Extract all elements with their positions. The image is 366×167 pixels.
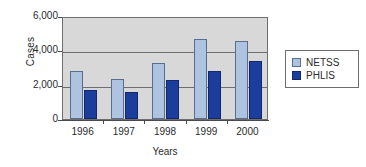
bar-group-1996: [63, 18, 104, 119]
bars-layer: [63, 18, 267, 119]
x-axis-line: [62, 120, 269, 121]
y-tick-label-6000: 6,000: [24, 10, 58, 21]
bar-netss-1997: [111, 79, 124, 119]
bar-phlis-1997: [125, 92, 138, 119]
legend-item-netss[interactable]: NETSS: [292, 56, 354, 69]
x-tick-label-2000: 2000: [227, 126, 267, 137]
bar-group-1997: [104, 18, 145, 119]
bar-group-1998: [145, 18, 186, 119]
legend-label: PHLIS: [306, 70, 335, 81]
bar-phlis-2000: [249, 61, 262, 119]
legend-item-phlis[interactable]: PHLIS: [292, 69, 354, 82]
x-tick-label-1997: 1997: [104, 126, 144, 137]
bar-netss-2000: [235, 41, 248, 119]
y-tick-label-4000: 4,000: [24, 44, 58, 55]
plot-area: [62, 17, 268, 120]
x-tick-mark-1997: [144, 120, 145, 124]
y-tick-label-0: 0: [24, 113, 58, 124]
chart-legend: NETSSPHLIS: [285, 50, 359, 88]
bar-group-2000: [228, 18, 269, 119]
y-axis-ticks: 6,0004,0002,0000: [22, 0, 58, 167]
legend-label: NETSS: [306, 57, 339, 68]
legend-swatch-phlis-icon: [292, 71, 301, 80]
bar-netss-1996: [70, 71, 83, 119]
x-tick-mark-1999: [227, 120, 228, 124]
x-tick-label-1999: 1999: [186, 126, 226, 137]
bar-phlis-1996: [84, 90, 97, 119]
x-tick-label-1998: 1998: [145, 126, 185, 137]
y-tick-label-2000: 2,000: [24, 79, 58, 90]
bar-phlis-1999: [208, 71, 221, 119]
bar-chart-figure: Cases 6,0004,0002,0000 19961997199819992…: [0, 0, 366, 167]
x-tick-mark-1998: [186, 120, 187, 124]
legend-swatch-netss-icon: [292, 58, 301, 67]
bar-phlis-1998: [166, 80, 179, 119]
bar-netss-1999: [194, 39, 207, 119]
x-axis-title: Years: [62, 146, 268, 157]
bar-netss-1998: [152, 63, 165, 119]
x-tick-label-1996: 1996: [63, 126, 103, 137]
x-tick-mark-1996: [103, 120, 104, 124]
bar-group-1999: [187, 18, 228, 119]
